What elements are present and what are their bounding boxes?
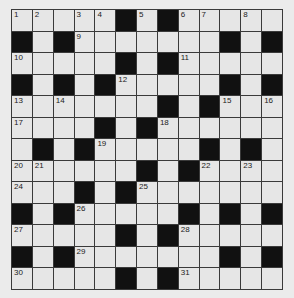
answer-cell[interactable] (75, 118, 95, 139)
answer-cell[interactable]: 10 (12, 53, 32, 74)
answer-cell[interactable]: 18 (158, 118, 178, 139)
answer-cell[interactable] (220, 268, 240, 289)
answer-cell[interactable] (158, 247, 178, 268)
answer-cell[interactable] (158, 204, 178, 225)
answer-cell[interactable] (179, 75, 199, 96)
answer-cell[interactable] (262, 139, 282, 160)
answer-cell[interactable] (241, 118, 261, 139)
answer-cell[interactable] (262, 225, 282, 246)
answer-cell[interactable] (33, 204, 53, 225)
answer-cell[interactable] (241, 182, 261, 203)
answer-cell[interactable]: 31 (179, 268, 199, 289)
answer-cell[interactable] (75, 96, 95, 117)
answer-cell[interactable] (179, 118, 199, 139)
answer-cell[interactable] (33, 268, 53, 289)
answer-cell[interactable] (95, 53, 115, 74)
answer-cell[interactable] (220, 118, 240, 139)
answer-cell[interactable] (95, 247, 115, 268)
answer-cell[interactable] (158, 161, 178, 182)
answer-cell[interactable] (200, 32, 220, 53)
answer-cell[interactable] (137, 53, 157, 74)
answer-cell[interactable] (54, 118, 74, 139)
answer-cell[interactable] (33, 247, 53, 268)
answer-cell[interactable] (12, 139, 32, 160)
answer-cell[interactable] (158, 182, 178, 203)
answer-cell[interactable] (220, 53, 240, 74)
answer-cell[interactable]: 21 (33, 161, 53, 182)
answer-cell[interactable] (33, 53, 53, 74)
answer-cell[interactable]: 4 (95, 10, 115, 31)
answer-cell[interactable]: 1 (12, 10, 32, 31)
answer-cell[interactable] (241, 53, 261, 74)
answer-cell[interactable] (137, 204, 157, 225)
answer-cell[interactable]: 2 (33, 10, 53, 31)
answer-cell[interactable] (200, 182, 220, 203)
answer-cell[interactable] (95, 268, 115, 289)
answer-cell[interactable]: 24 (12, 182, 32, 203)
answer-cell[interactable] (137, 225, 157, 246)
answer-cell[interactable] (95, 161, 115, 182)
answer-cell[interactable]: 7 (200, 10, 220, 31)
answer-cell[interactable] (241, 204, 261, 225)
answer-cell[interactable] (241, 268, 261, 289)
answer-cell[interactable] (75, 161, 95, 182)
answer-cell[interactable] (33, 75, 53, 96)
answer-cell[interactable] (54, 182, 74, 203)
answer-cell[interactable] (158, 75, 178, 96)
answer-cell[interactable]: 11 (179, 53, 199, 74)
answer-cell[interactable] (33, 225, 53, 246)
answer-cell[interactable]: 12 (116, 75, 136, 96)
answer-cell[interactable] (95, 182, 115, 203)
answer-cell[interactable] (262, 268, 282, 289)
answer-cell[interactable]: 28 (179, 225, 199, 246)
answer-cell[interactable]: 30 (12, 268, 32, 289)
answer-cell[interactable] (95, 96, 115, 117)
answer-cell[interactable] (116, 96, 136, 117)
answer-cell[interactable]: 3 (75, 10, 95, 31)
answer-cell[interactable]: 13 (12, 96, 32, 117)
answer-cell[interactable] (54, 53, 74, 74)
answer-cell[interactable] (220, 139, 240, 160)
answer-cell[interactable] (75, 75, 95, 96)
answer-cell[interactable] (179, 96, 199, 117)
answer-cell[interactable] (200, 225, 220, 246)
answer-cell[interactable] (179, 182, 199, 203)
answer-cell[interactable] (54, 139, 74, 160)
answer-cell[interactable] (54, 161, 74, 182)
answer-cell[interactable] (33, 96, 53, 117)
answer-cell[interactable] (262, 182, 282, 203)
answer-cell[interactable] (158, 139, 178, 160)
answer-cell[interactable] (200, 75, 220, 96)
answer-cell[interactable] (220, 225, 240, 246)
answer-cell[interactable] (200, 118, 220, 139)
answer-cell[interactable]: 14 (54, 96, 74, 117)
answer-cell[interactable] (220, 10, 240, 31)
answer-cell[interactable] (116, 247, 136, 268)
answer-cell[interactable] (116, 32, 136, 53)
answer-cell[interactable] (33, 32, 53, 53)
answer-cell[interactable] (158, 32, 178, 53)
answer-cell[interactable] (116, 204, 136, 225)
answer-cell[interactable] (179, 247, 199, 268)
answer-cell[interactable] (200, 268, 220, 289)
answer-cell[interactable]: 26 (75, 204, 95, 225)
answer-cell[interactable]: 9 (75, 32, 95, 53)
answer-cell[interactable] (137, 75, 157, 96)
answer-cell[interactable] (200, 247, 220, 268)
answer-cell[interactable] (262, 118, 282, 139)
answer-cell[interactable] (241, 75, 261, 96)
answer-cell[interactable]: 25 (137, 182, 157, 203)
answer-cell[interactable] (200, 204, 220, 225)
answer-cell[interactable] (137, 139, 157, 160)
answer-cell[interactable] (241, 247, 261, 268)
answer-cell[interactable]: 23 (241, 161, 261, 182)
answer-cell[interactable] (220, 182, 240, 203)
answer-cell[interactable] (75, 53, 95, 74)
answer-cell[interactable] (116, 118, 136, 139)
answer-cell[interactable] (33, 118, 53, 139)
answer-cell[interactable] (33, 182, 53, 203)
answer-cell[interactable] (241, 96, 261, 117)
answer-cell[interactable]: 22 (200, 161, 220, 182)
answer-cell[interactable]: 20 (12, 161, 32, 182)
answer-cell[interactable] (137, 32, 157, 53)
